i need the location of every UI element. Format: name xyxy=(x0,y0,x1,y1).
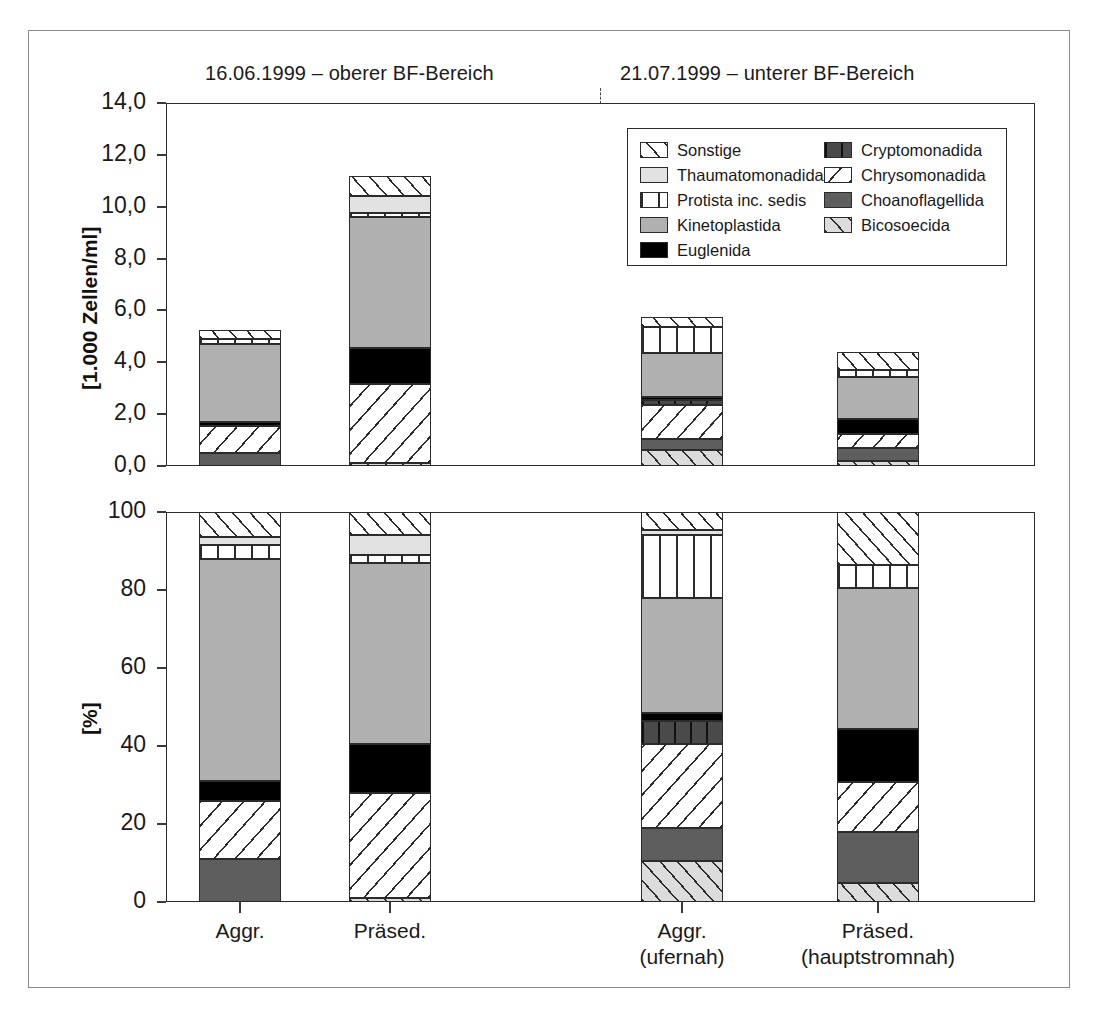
legend-item-choanoflagellida: Choanoflagellida xyxy=(824,188,986,212)
bar-segment-kinetoplastida xyxy=(641,598,723,713)
bar-abundance-0 xyxy=(199,103,281,466)
bar-segment-protista-inc-sedis xyxy=(349,213,431,217)
y-tick-abundance-2 xyxy=(157,361,166,363)
y-tick-label-relative-5: 100 xyxy=(54,497,146,524)
x-axis-label-line1: Präsed. xyxy=(275,918,505,944)
bar-segment-kinetoplastida xyxy=(199,344,281,422)
bar-segment-choanoflagellida xyxy=(641,828,723,861)
bar-relative-2 xyxy=(641,512,723,902)
x-tick-2 xyxy=(681,902,683,913)
bar-segment-sonstige xyxy=(837,352,919,370)
legend-label: Euglenida xyxy=(677,241,750,260)
legend-item-chrysomonadida: Chrysomonadida xyxy=(824,163,986,187)
y-tick-abundance-6 xyxy=(157,154,166,156)
bar-segment-euglenida xyxy=(837,419,919,433)
swatch-protista-inc-sedis-icon xyxy=(640,192,668,208)
legend-column-right: CryptomonadidaChrysomonadidaChoanoflagel… xyxy=(824,138,986,238)
legend-column-left: SonstigeThaumatomonadidaProtista inc. se… xyxy=(640,138,824,263)
x-tick-1 xyxy=(389,902,391,913)
legend-label: Choanoflagellida xyxy=(861,191,984,210)
y-tick-abundance-7 xyxy=(157,102,166,104)
y-tick-label-abundance-0: 0,0 xyxy=(54,451,146,478)
bar-segment-bicosoecida xyxy=(837,883,919,902)
bar-segment-euglenida xyxy=(641,713,723,721)
swatch-euglenida-icon xyxy=(640,242,668,258)
swatch-choanoflagellida-icon xyxy=(824,192,852,208)
y-tick-label-abundance-6: 12,0 xyxy=(54,140,146,167)
bar-segment-kinetoplastida xyxy=(349,563,431,744)
figure-root: 16.06.1999 – oberer BF-Bereich 21.07.199… xyxy=(0,0,1099,1025)
group-divider-header xyxy=(600,88,601,104)
bar-relative-3 xyxy=(837,512,919,902)
bar-segment-chrysomonadida xyxy=(837,434,919,448)
legend-item-bicosoecida: Bicosoecida xyxy=(824,213,986,237)
bar-segment-thaumatomonadida xyxy=(641,530,723,536)
bar-relative-0 xyxy=(199,512,281,902)
y-tick-label-relative-3: 60 xyxy=(54,653,146,680)
x-axis-label-line1: Präsed. xyxy=(763,918,993,944)
y-tick-abundance-1 xyxy=(157,413,166,415)
bar-segment-thaumatomonadida xyxy=(349,535,431,555)
legend-item-sonstige: Sonstige xyxy=(640,138,824,162)
bar-segment-choanoflagellida xyxy=(837,832,919,883)
bar-segment-protista-inc-sedis xyxy=(641,535,723,597)
bar-segment-protista-inc-sedis xyxy=(199,339,281,344)
y-tick-label-abundance-5: 10,0 xyxy=(54,192,146,219)
bar-segment-chrysomonadida xyxy=(199,801,281,860)
chart-abundance-y-axis-title: [1.000 Zellen/ml] xyxy=(78,227,102,390)
bar-segment-sonstige xyxy=(641,317,723,327)
bar-segment-euglenida xyxy=(349,348,431,384)
bar-segment-choanoflagellida xyxy=(199,859,281,902)
y-tick-abundance-5 xyxy=(157,206,166,208)
legend-label: Protista inc. sedis xyxy=(677,191,806,210)
legend-item-euglenida: Euglenida xyxy=(640,238,824,262)
chart-relative-y-axis-title: [%] xyxy=(78,702,102,735)
bar-segment-kinetoplastida xyxy=(837,377,919,420)
bar-segment-sonstige xyxy=(641,512,723,530)
bar-segment-choanoflagellida xyxy=(837,448,919,461)
x-tick-0 xyxy=(239,902,241,913)
bar-relative-1 xyxy=(349,512,431,902)
bar-segment-sonstige xyxy=(349,512,431,535)
bar-segment-thaumatomonadida xyxy=(199,537,281,545)
bar-segment-chrysomonadida xyxy=(349,384,431,463)
x-axis-label-1: Präsed. xyxy=(275,918,505,944)
bar-segment-sonstige xyxy=(837,512,919,565)
legend-label: Kinetoplastida xyxy=(677,216,781,235)
legend-label: Chrysomonadida xyxy=(861,166,986,185)
bar-segment-euglenida xyxy=(199,781,281,801)
swatch-cryptomonadida-icon xyxy=(824,142,852,158)
legend-item-thaumatomonadida: Thaumatomonadida xyxy=(640,163,824,187)
bar-segment-protista-inc-sedis xyxy=(641,327,723,353)
bar-segment-choanoflagellida xyxy=(199,453,281,466)
x-axis-label-line2: (hauptstromnah) xyxy=(763,944,993,970)
bar-segment-kinetoplastida xyxy=(349,217,431,348)
panel-title-left: 16.06.1999 – oberer BF-Bereich xyxy=(205,62,494,85)
y-tick-relative-0 xyxy=(157,901,166,903)
y-tick-relative-5 xyxy=(157,511,166,513)
swatch-thaumatomonadida-icon xyxy=(640,167,668,183)
x-tick-3 xyxy=(877,902,879,913)
y-tick-label-abundance-1: 2,0 xyxy=(54,399,146,426)
bar-segment-euglenida xyxy=(349,744,431,793)
bar-abundance-1 xyxy=(349,103,431,466)
x-axis-label-3: Präsed.(hauptstromnah) xyxy=(763,918,993,969)
bar-segment-chrysomonadida xyxy=(641,744,723,828)
bar-segment-bicosoecida xyxy=(349,463,431,466)
bar-segment-bicosoecida xyxy=(641,861,723,902)
bar-segment-protista-inc-sedis xyxy=(349,555,431,563)
bar-segment-sonstige xyxy=(349,176,431,197)
legend-label: Thaumatomonadida xyxy=(677,166,824,185)
legend-item-kinetoplastida: Kinetoplastida xyxy=(640,213,824,237)
bar-segment-kinetoplastida xyxy=(837,588,919,729)
bar-segment-chrysomonadida xyxy=(349,793,431,898)
y-tick-label-relative-2: 40 xyxy=(54,731,146,758)
bar-segment-protista-inc-sedis xyxy=(199,545,281,559)
y-tick-abundance-0 xyxy=(157,465,166,467)
y-tick-abundance-4 xyxy=(157,258,166,260)
swatch-sonstige-icon xyxy=(640,142,668,158)
y-tick-label-abundance-7: 14,0 xyxy=(54,88,146,115)
bar-segment-sonstige xyxy=(199,330,281,339)
bar-segment-bicosoecida xyxy=(641,450,723,466)
y-tick-label-relative-4: 80 xyxy=(54,575,146,602)
